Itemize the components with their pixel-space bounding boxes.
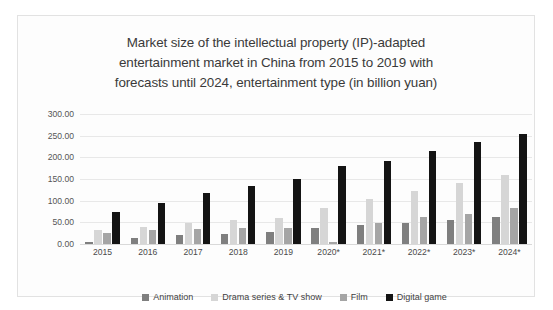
bar: [402, 223, 410, 244]
chart-title-line-1: Market size of the intellectual property…: [46, 33, 506, 53]
y-axis-tick-label: 300.00: [26, 109, 74, 119]
bar: [338, 166, 346, 244]
bar: [293, 179, 301, 244]
bar: [103, 233, 111, 244]
bar-group: [80, 114, 125, 244]
x-axis-tick-label: 2021*: [363, 247, 385, 257]
legend-item[interactable]: Animation: [142, 292, 193, 302]
bar: [465, 214, 473, 244]
bar: [474, 142, 482, 244]
legend-swatch-icon: [340, 294, 347, 301]
legend-label: Animation: [153, 292, 193, 302]
x-axis-tick-label: 2023*: [453, 247, 475, 257]
y-axis: 300.00250.00200.00150.00100.0050.000.00: [26, 114, 74, 244]
x-axis-tick-label: 2024*: [498, 247, 520, 257]
bar: [239, 228, 247, 244]
bar: [366, 199, 374, 244]
bar: [329, 242, 337, 244]
bar: [194, 229, 202, 244]
chart-legend: AnimationDrama series & TV showFilmDigit…: [18, 292, 553, 302]
bar: [320, 208, 328, 244]
bar-group: [306, 114, 351, 244]
x-axis-tick-label: 2018: [229, 247, 248, 257]
bar-group: [216, 114, 261, 244]
x-axis-tick-label: 2017: [183, 247, 202, 257]
y-axis-tick-label: 50.00: [26, 217, 74, 227]
chart-figure: Market size of the intellectual property…: [17, 15, 535, 297]
bar: [501, 175, 509, 244]
bar: [510, 208, 518, 244]
bar: [176, 235, 184, 244]
bar: [131, 238, 139, 245]
legend-swatch-icon: [386, 294, 393, 301]
chart-title-line-2: entertainment market in China from 2015 …: [46, 53, 506, 73]
bar-group: [261, 114, 306, 244]
bar-group: [125, 114, 170, 244]
y-axis-tick-label: 200.00: [26, 152, 74, 162]
bar: [447, 220, 455, 244]
bar: [185, 223, 193, 244]
bar: [158, 203, 166, 244]
x-axis-tick-label: 2016: [138, 247, 157, 257]
legend-item[interactable]: Drama series & TV show: [211, 292, 321, 302]
bar: [221, 234, 229, 244]
bar-group: [487, 114, 532, 244]
x-axis-tick-label: 2019: [274, 247, 293, 257]
bar-layer: [80, 114, 532, 244]
gridline: [80, 244, 532, 245]
bar: [85, 242, 93, 244]
bar: [284, 228, 292, 244]
legend-item[interactable]: Digital game: [386, 292, 447, 302]
bar-group: [442, 114, 487, 244]
legend-label: Film: [351, 292, 368, 302]
x-axis-tick-label: 2022*: [408, 247, 430, 257]
bar: [311, 228, 319, 244]
bar-group: [351, 114, 396, 244]
bar: [230, 220, 238, 244]
chart-title-line-3: forecasts until 2024, entertainment type…: [46, 73, 506, 93]
bar: [375, 223, 383, 244]
bar: [357, 225, 365, 244]
legend-label: Digital game: [397, 292, 447, 302]
legend-swatch-icon: [211, 294, 218, 301]
bar: [248, 186, 256, 244]
bar: [429, 151, 437, 244]
bar-group: [170, 114, 215, 244]
y-axis-tick-label: 150.00: [26, 174, 74, 184]
bar: [275, 218, 283, 244]
legend-item[interactable]: Film: [340, 292, 368, 302]
bar: [94, 230, 102, 244]
plot-area: [80, 114, 532, 244]
bar: [140, 227, 148, 244]
bar: [420, 217, 428, 244]
x-axis-tick-label: 2015: [93, 247, 112, 257]
y-axis-tick-label: 0.00: [26, 239, 74, 249]
y-axis-tick-label: 100.00: [26, 196, 74, 206]
chart-title: Market size of the intellectual property…: [46, 33, 506, 93]
bar: [456, 183, 464, 244]
x-axis-tick-label: 2020*: [317, 247, 339, 257]
bar: [149, 230, 157, 244]
bar-group: [396, 114, 441, 244]
y-axis-tick-label: 250.00: [26, 131, 74, 141]
bar: [384, 161, 392, 244]
bar: [411, 191, 419, 244]
legend-swatch-icon: [142, 294, 149, 301]
bar: [203, 193, 211, 244]
legend-label: Drama series & TV show: [222, 292, 321, 302]
bar: [112, 212, 120, 245]
bar: [492, 217, 500, 244]
bar: [519, 134, 527, 245]
bar: [266, 232, 274, 244]
x-axis: 201520162017201820192020*2021*2022*2023*…: [80, 247, 532, 263]
